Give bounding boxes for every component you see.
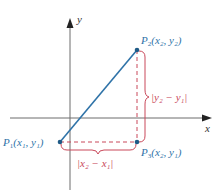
label-p2-coords: (x₂, y₂) bbox=[151, 34, 182, 47]
label-p1: P1(x₁, y₁) bbox=[2, 136, 44, 150]
point-p2 bbox=[135, 48, 140, 53]
label-p3-coords: (x₂, y₁) bbox=[151, 146, 182, 159]
segment-p1-p2 bbox=[60, 50, 137, 142]
coordinate-plane: y x P2(x₂, y₂) P1(x₁, y₁) P3(x₂, y₁) |y₂… bbox=[0, 0, 218, 196]
y-axis-label: y bbox=[76, 13, 82, 25]
distance-formula-diagram: y x P2(x₂, y₂) P1(x₁, y₁) P3(x₂, y₁) |y₂… bbox=[0, 0, 218, 196]
horizontal-distance-label: |x₂ − x₁| bbox=[77, 157, 113, 169]
vertical-distance-label: |y₂ − y₁| bbox=[151, 91, 187, 103]
label-p3: P3(x₂, y₁) bbox=[140, 146, 182, 160]
point-p3 bbox=[135, 140, 140, 145]
point-p1 bbox=[58, 140, 63, 145]
x-axis-label: x bbox=[204, 122, 210, 134]
horizontal-brace bbox=[61, 144, 136, 154]
label-p1-coords: (x₁, y₁) bbox=[13, 136, 44, 149]
y-axis-arrow-icon bbox=[67, 18, 74, 28]
label-p2: P2(x₂, y₂) bbox=[140, 34, 182, 48]
x-axis-arrow-icon bbox=[202, 115, 212, 122]
vertical-brace bbox=[139, 51, 149, 142]
